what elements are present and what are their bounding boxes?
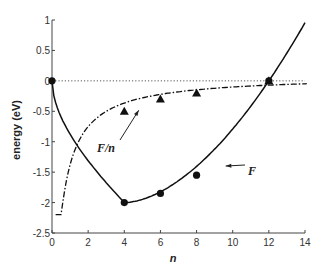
chart: 0246810121410.50-0.5-1-1.5-2-2.5 n energ… <box>0 0 326 272</box>
f-data-point <box>48 77 55 84</box>
y-tick-label: 0.5 <box>36 45 50 56</box>
y-tick-label: -2.5 <box>33 228 51 239</box>
axes: 0246810121410.50-0.5-1-1.5-2-2.5 <box>33 15 311 248</box>
x-tick-label: 12 <box>263 237 275 248</box>
x-tick-label: 10 <box>227 237 239 248</box>
annotation-f: F <box>247 164 256 178</box>
x-tick-label: 6 <box>158 237 164 248</box>
f-data-point <box>157 190 164 197</box>
x-tick-label: 2 <box>85 237 91 248</box>
y-tick-label: -1 <box>41 137 50 148</box>
f-over-n-curve <box>56 84 307 215</box>
annotation-f-over-n: F/n <box>96 141 115 155</box>
f-over-n-data-point <box>156 95 165 103</box>
x-axis-label: n <box>170 252 177 264</box>
y-tick-label: -1.5 <box>33 167 51 178</box>
y-axis-label: energy (eV) <box>10 100 22 160</box>
plot-area <box>48 23 306 215</box>
y-tick-label: -2 <box>41 198 50 209</box>
x-tick-label: 4 <box>122 237 128 248</box>
x-tick-label: 14 <box>299 237 311 248</box>
y-tick-label: -0.5 <box>33 106 51 117</box>
f-curve <box>52 23 305 203</box>
x-tick-label: 8 <box>194 237 200 248</box>
f-over-n-data-point <box>120 107 129 115</box>
f-data-point <box>193 172 200 179</box>
f-data-point <box>121 199 128 206</box>
x-tick-label: 0 <box>49 237 55 248</box>
y-tick-label: 1 <box>44 15 50 26</box>
